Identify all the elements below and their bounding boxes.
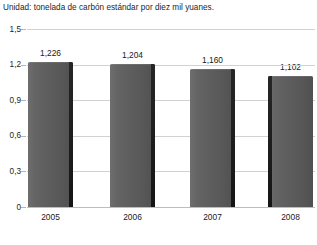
y-axis-tick — [21, 171, 26, 172]
y-axis-tick-label: 0,6 — [0, 131, 21, 140]
bar-body — [268, 76, 313, 207]
bar — [190, 69, 235, 207]
bar-chart: Unidad: tonelada de carbón estándar por … — [0, 0, 317, 245]
y-axis-tick — [21, 136, 26, 137]
y-axis-tick — [21, 207, 26, 208]
bar-side-edge — [69, 62, 73, 207]
x-axis-tick-label: 2007 — [190, 212, 235, 222]
y-axis-tick-label: 0,3 — [0, 167, 21, 176]
bar — [268, 76, 313, 207]
plot-area — [27, 29, 315, 207]
bar-body — [110, 64, 155, 207]
y-axis-tick-label: 1,5 — [0, 25, 21, 34]
bar-body — [28, 62, 73, 207]
y-axis-tick — [21, 65, 26, 66]
gridline — [27, 29, 315, 30]
x-axis-tick-label: 2006 — [110, 212, 155, 222]
y-axis-tick — [21, 29, 26, 30]
bar-side-edge — [231, 69, 235, 207]
y-axis-tick — [21, 100, 26, 101]
x-axis-tick-label: 2005 — [28, 212, 73, 222]
y-axis-tick-label: 0,9 — [0, 96, 21, 105]
bar-body — [190, 69, 235, 207]
bar-side-edge — [268, 76, 272, 207]
bar — [110, 64, 155, 207]
bar-side-edge — [151, 64, 155, 207]
gridline — [27, 207, 315, 208]
y-axis-tick-label: 1,2 — [0, 60, 21, 69]
y-axis-tick-label: 0 — [0, 203, 21, 212]
x-axis-tick-label: 2008 — [268, 212, 313, 222]
chart-title: Unidad: tonelada de carbón estándar por … — [3, 2, 214, 13]
bar — [28, 62, 73, 207]
